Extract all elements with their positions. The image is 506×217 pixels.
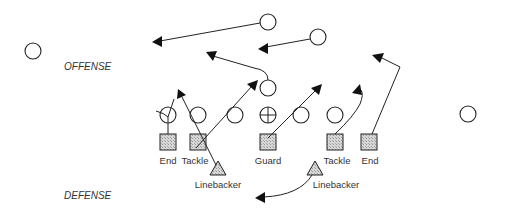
route-end-right-loop	[372, 53, 400, 134]
offense-player-deep	[260, 14, 276, 30]
route-back-curl	[206, 51, 268, 80]
linebacker-left	[210, 161, 226, 175]
defense-end-left	[160, 134, 176, 150]
route-wing-to-left	[258, 39, 310, 54]
label-guard: Guard	[255, 155, 281, 166]
defense-end-right	[361, 134, 377, 150]
label-end-left: End	[160, 155, 177, 166]
route-linebacker-left-blitz	[177, 89, 216, 165]
offense-player-back	[260, 80, 276, 96]
linebacker-right	[307, 161, 323, 175]
offense-label: OFFENSE	[64, 61, 112, 72]
route-deep-to-left	[152, 23, 260, 47]
defense-tackle-right	[327, 134, 343, 150]
offense-player-far-left	[25, 43, 41, 59]
label-tackle-right: Tackle	[324, 155, 351, 166]
label-end-right: End	[362, 155, 379, 166]
offense-lineman-3	[227, 107, 243, 123]
play-diagram: OFFENSE DEFENSE	[0, 0, 506, 217]
defense-label: DEFENSE	[64, 190, 112, 201]
defense-tackle-left	[190, 134, 206, 150]
route-linebacker-right-drop	[255, 175, 312, 203]
route-guard-rush	[268, 84, 322, 138]
offense-lineman-6	[327, 107, 343, 123]
defense-guard	[260, 134, 276, 150]
offense-player-wing	[310, 29, 326, 45]
offense-lineman-2	[190, 107, 206, 123]
label-linebacker-right: Linebacker	[313, 179, 359, 190]
label-tackle-left: Tackle	[182, 155, 209, 166]
offense-lineman-5	[293, 107, 309, 123]
offense-center	[260, 107, 276, 123]
label-linebacker-left: Linebacker	[195, 179, 241, 190]
offense-player-far-right	[460, 106, 476, 122]
